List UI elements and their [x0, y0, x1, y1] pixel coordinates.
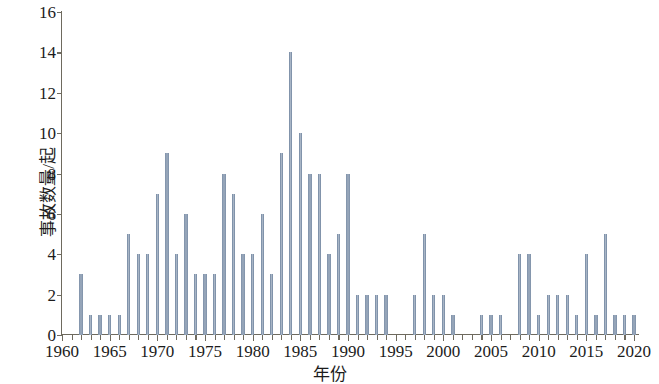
- x-tick-mark: [386, 335, 387, 340]
- x-tick-mark: [243, 335, 244, 340]
- x-tick-mark: [415, 335, 416, 340]
- bar: [175, 254, 178, 335]
- x-tick-mark: [186, 335, 187, 340]
- x-tick-mark: [605, 335, 606, 340]
- x-tick-mark: [338, 335, 339, 340]
- plot-area: 0246810121416 19601965197019751980198519…: [62, 12, 634, 335]
- bar: [98, 315, 101, 335]
- bar: [604, 234, 607, 335]
- x-tick-mark: [396, 335, 397, 341]
- bar: [127, 234, 130, 335]
- bar: [547, 295, 550, 335]
- x-tick-mark: [215, 335, 216, 340]
- bar: [442, 295, 445, 335]
- x-tick-mark: [110, 335, 111, 341]
- x-tick-mark: [586, 335, 587, 341]
- x-tick-mark: [253, 335, 254, 341]
- bar: [518, 254, 521, 335]
- bar: [527, 254, 530, 335]
- bar: [632, 315, 635, 335]
- bar: [108, 315, 111, 335]
- bar: [118, 315, 121, 335]
- x-tick-mark: [91, 335, 92, 340]
- bar: [270, 274, 273, 335]
- x-tick-mark: [501, 335, 502, 340]
- bar: [337, 234, 340, 335]
- x-tick-mark: [348, 335, 349, 341]
- x-tick-mark: [567, 335, 568, 340]
- x-tick-mark: [462, 335, 463, 340]
- bar: [137, 254, 140, 335]
- x-tick-label: 1970: [140, 343, 174, 360]
- bar: [289, 52, 292, 335]
- x-tick-mark: [262, 335, 263, 340]
- y-axis-label: 事故数量/起: [34, 147, 59, 237]
- bar: [184, 214, 187, 335]
- bar: [146, 254, 149, 335]
- bar: [280, 153, 283, 335]
- x-tick-mark: [558, 335, 559, 340]
- y-tick-label: 8: [48, 165, 57, 182]
- x-tick-mark: [529, 335, 530, 340]
- x-tick-mark: [577, 335, 578, 340]
- y-tick-label: 12: [39, 84, 56, 101]
- x-tick-mark: [596, 335, 597, 340]
- bar: [613, 315, 616, 335]
- x-tick-mark: [405, 335, 406, 340]
- bar: [222, 174, 225, 336]
- x-tick-mark: [119, 335, 120, 340]
- x-tick-label: 1960: [45, 343, 79, 360]
- x-tick-label: 1975: [188, 343, 222, 360]
- x-tick-label: 2000: [426, 343, 460, 360]
- bar: [261, 214, 264, 335]
- bar: [213, 274, 216, 335]
- x-tick-mark: [358, 335, 359, 340]
- bar: [308, 174, 311, 336]
- x-tick-mark: [195, 335, 196, 340]
- bar: [384, 295, 387, 335]
- y-tick-label: 14: [39, 44, 56, 61]
- x-tick-mark: [81, 335, 82, 340]
- x-tick-mark: [453, 335, 454, 340]
- bar: [79, 274, 82, 335]
- bar: [299, 133, 302, 335]
- y-tick-mark: [57, 12, 62, 13]
- bar: [423, 234, 426, 335]
- x-tick-label: 1995: [379, 343, 413, 360]
- x-tick-mark: [329, 335, 330, 340]
- y-tick-label: 2: [48, 286, 57, 303]
- x-tick-mark: [272, 335, 273, 340]
- y-tick-label: 6: [48, 205, 57, 222]
- bar: [346, 174, 349, 336]
- x-tick-mark: [548, 335, 549, 340]
- y-tick-mark: [57, 214, 62, 215]
- x-tick-mark: [148, 335, 149, 340]
- bar: [89, 315, 92, 335]
- x-tick-mark: [424, 335, 425, 340]
- x-tick-mark: [205, 335, 206, 341]
- y-tick-mark: [57, 133, 62, 134]
- bar: [480, 315, 483, 335]
- bar: [585, 254, 588, 335]
- y-tick-label: 10: [39, 125, 56, 142]
- bar: [327, 254, 330, 335]
- x-tick-label: 1990: [331, 343, 365, 360]
- x-tick-label: 1965: [93, 343, 127, 360]
- x-tick-mark: [367, 335, 368, 340]
- bar: [194, 274, 197, 335]
- x-tick-mark: [62, 335, 63, 341]
- x-tick-mark: [129, 335, 130, 340]
- x-tick-label: 2015: [569, 343, 603, 360]
- bar: [537, 315, 540, 335]
- bar: [375, 295, 378, 335]
- bar: [499, 315, 502, 335]
- bar: [241, 254, 244, 335]
- y-tick-label: 16: [39, 4, 56, 21]
- bar: [556, 295, 559, 335]
- x-tick-mark: [291, 335, 292, 340]
- x-tick-mark: [481, 335, 482, 340]
- bar: [203, 274, 206, 335]
- x-tick-mark: [472, 335, 473, 340]
- x-tick-mark: [167, 335, 168, 340]
- x-tick-mark: [224, 335, 225, 340]
